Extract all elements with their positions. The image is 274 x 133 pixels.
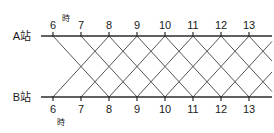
tick-label-bottom-10: 10 <box>159 103 171 115</box>
tick-label-top-7: 7 <box>78 19 84 31</box>
train-run-line <box>249 72 272 97</box>
tick-label-bottom-12: 12 <box>215 103 227 115</box>
train-schedule-diagram: 678910111213 678910111213 A站 B站 時 時 <box>0 0 274 133</box>
tick-label-top-12: 12 <box>215 19 227 31</box>
station-a-label: A站 <box>13 29 31 42</box>
hour-unit-label-top: 時 <box>62 14 70 23</box>
tick-label-bottom-6: 6 <box>50 103 56 115</box>
station-b-label: B站 <box>13 90 31 103</box>
train-run-line <box>221 36 272 92</box>
train-run-lines-group <box>53 36 272 97</box>
tick-label-top-6: 6 <box>50 19 56 31</box>
bottom-axis-tick-labels: 678910111213 <box>50 103 255 115</box>
tick-label-bottom-11: 11 <box>187 103 198 115</box>
tick-label-bottom-9: 9 <box>134 103 140 115</box>
tick-label-bottom-13: 13 <box>243 103 255 115</box>
tick-label-top-10: 10 <box>159 19 171 31</box>
train-run-line <box>221 41 272 97</box>
train-run-line <box>249 36 272 61</box>
hour-unit-label-bottom: 時 <box>57 118 65 127</box>
tick-label-top-9: 9 <box>134 19 140 31</box>
tick-label-top-11: 11 <box>187 19 198 31</box>
top-axis-tick-labels: 678910111213 <box>50 19 255 31</box>
tick-label-top-8: 8 <box>106 19 112 31</box>
tick-label-top-13: 13 <box>243 19 255 31</box>
schedule-canvas: 678910111213 678910111213 A站 B站 時 時 <box>0 0 274 133</box>
tick-label-bottom-8: 8 <box>106 103 112 115</box>
tick-label-bottom-7: 7 <box>78 103 84 115</box>
